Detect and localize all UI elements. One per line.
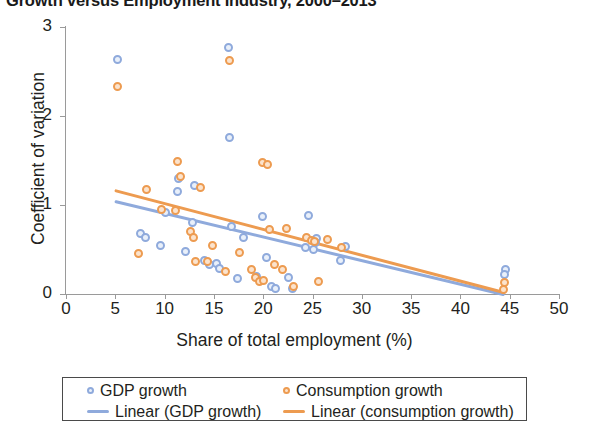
x-tick-label: 50 — [544, 299, 574, 319]
x-tick-label: 30 — [347, 299, 377, 319]
legend-item-linear-gdp-growth: Linear (GDP growth) — [63, 403, 275, 421]
data-point-gdp-growth — [239, 233, 248, 242]
data-point-gdp-growth — [181, 247, 190, 256]
data-point-consumption-growth — [265, 225, 274, 234]
data-point-consumption-growth — [263, 160, 272, 169]
legend-row-trendlines: Linear (GDP growth) Linear (consumption … — [63, 401, 526, 422]
gdp-growth-marker-icon — [87, 387, 94, 394]
scatter-chart: Growth versus Employment Industry, 2000–… — [0, 0, 589, 425]
y-axis-title: Coefficient of variation — [28, 29, 49, 289]
x-tick-label: 20 — [248, 299, 278, 319]
data-point-gdp-growth — [304, 211, 313, 220]
legend-item-gdp-growth: GDP growth — [63, 382, 275, 400]
data-point-consumption-growth — [196, 183, 205, 192]
linear-gdp-growth-line-icon — [87, 410, 109, 413]
x-tick-label: 10 — [150, 299, 180, 319]
data-point-consumption-growth — [173, 157, 182, 166]
x-tick-label: 25 — [298, 299, 328, 319]
x-tick-label: 15 — [199, 299, 229, 319]
data-point-gdp-growth — [188, 218, 197, 227]
data-point-gdp-growth — [336, 256, 345, 265]
x-tick-label: 0 — [51, 299, 81, 319]
data-point-gdp-growth — [225, 133, 234, 142]
x-tick-label: 45 — [495, 299, 525, 319]
data-point-consumption-growth — [323, 235, 332, 244]
consumption-growth-marker-icon — [283, 387, 290, 394]
data-point-consumption-growth — [235, 248, 244, 257]
data-point-consumption-growth — [282, 224, 291, 233]
legend-label-consumption-growth: Consumption growth — [296, 382, 443, 400]
data-point-gdp-growth — [113, 55, 122, 64]
data-point-gdp-growth — [173, 187, 182, 196]
legend-row-markers: GDP growth Consumption growth — [63, 380, 526, 401]
data-point-consumption-growth — [171, 206, 180, 215]
data-point-gdp-growth — [233, 274, 242, 283]
data-point-consumption-growth — [189, 233, 198, 242]
data-point-consumption-growth — [157, 205, 166, 214]
data-point-consumption-growth — [208, 241, 217, 250]
data-point-gdp-growth — [258, 212, 267, 221]
data-point-gdp-growth — [284, 273, 293, 282]
data-point-gdp-growth — [227, 222, 236, 231]
data-point-gdp-growth — [262, 253, 271, 262]
legend-label-gdp-growth: GDP growth — [100, 382, 187, 400]
data-point-consumption-growth — [259, 276, 268, 285]
legend-label-linear-consumption-growth: Linear (consumption growth) — [311, 403, 514, 421]
data-point-consumption-growth — [289, 282, 298, 291]
data-point-consumption-growth — [310, 237, 319, 246]
data-point-consumption-growth — [270, 260, 279, 269]
data-point-consumption-growth — [499, 285, 508, 294]
legend-item-consumption-growth: Consumption growth — [275, 382, 526, 400]
plot-area — [66, 27, 559, 294]
x-axis-title: Share of total employment (%) — [0, 330, 589, 351]
x-tick-label: 40 — [445, 299, 475, 319]
x-tick-label: 5 — [100, 299, 130, 319]
data-point-consumption-growth — [221, 267, 230, 276]
legend-item-linear-consumption-growth: Linear (consumption growth) — [275, 403, 526, 421]
data-point-gdp-growth — [271, 284, 280, 293]
data-point-consumption-growth — [225, 56, 234, 65]
legend-label-linear-gdp-growth: Linear (GDP growth) — [115, 403, 261, 421]
data-point-gdp-growth — [156, 241, 165, 250]
linear-consumption-growth-line-icon — [283, 410, 305, 413]
chart-legend: GDP growth Consumption growth Linear (GD… — [62, 377, 527, 421]
data-point-gdp-growth — [224, 43, 233, 52]
x-tick-label: 35 — [396, 299, 426, 319]
data-point-consumption-growth — [191, 257, 200, 266]
data-point-consumption-growth — [176, 172, 185, 181]
chart-title: Growth versus Employment Industry, 2000–… — [6, 0, 377, 10]
data-point-consumption-growth — [337, 243, 346, 252]
data-point-consumption-growth — [113, 82, 122, 91]
data-point-gdp-growth — [141, 233, 150, 242]
data-point-consumption-growth — [134, 249, 143, 258]
data-point-consumption-growth — [314, 277, 323, 286]
data-point-consumption-growth — [142, 185, 151, 194]
